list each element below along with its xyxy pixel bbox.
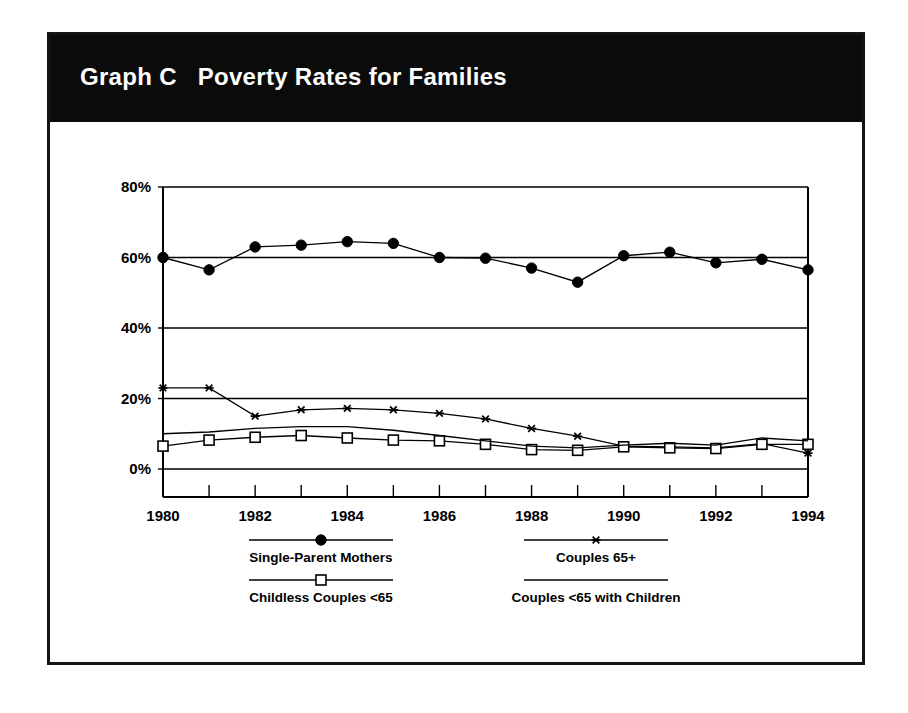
- page-title: Graph C Poverty Rates for Families: [80, 63, 507, 91]
- data-point-1993: [757, 439, 767, 449]
- y-tick-label-80: 80%: [121, 178, 151, 195]
- data-point-1981: [204, 265, 214, 275]
- series-childless-couples-65: [158, 431, 813, 456]
- series-group: [158, 236, 813, 456]
- title-banner: Graph C Poverty Rates for Families: [50, 35, 862, 122]
- data-point-1988: [527, 425, 536, 432]
- data-point-1985: [389, 406, 398, 413]
- data-point-1981: [204, 385, 213, 392]
- legend-entry-childless-couples-65[interactable]: Childless Couples <65: [249, 575, 393, 605]
- plot-area: 0%20%40%60%80% 1980198219841986198819901…: [50, 122, 862, 668]
- x-tick-label-1990: 1990: [607, 507, 640, 524]
- data-point-1989: [573, 433, 582, 440]
- x-tick-label-1982: 1982: [238, 507, 271, 524]
- legend-marker-asterisk: [591, 537, 600, 544]
- data-point-1989: [573, 445, 583, 455]
- y-tick-label-20: 20%: [121, 390, 151, 407]
- legend-label: Childless Couples <65: [249, 590, 393, 605]
- x-tick-label-1986: 1986: [423, 507, 456, 524]
- legend-label: Couples 65+: [556, 550, 636, 565]
- data-point-1984: [342, 433, 352, 443]
- data-point-1991: [665, 443, 675, 453]
- data-point-1983: [297, 406, 306, 413]
- data-point-1990: [619, 251, 629, 261]
- y-tick-labels-group: 0%20%40%60%80%: [121, 178, 163, 477]
- x-tick-label-1994: 1994: [791, 507, 825, 524]
- data-point-1991: [665, 247, 675, 257]
- legend-label: Single-Parent Mothers: [249, 550, 392, 565]
- data-point-1982: [251, 413, 260, 420]
- data-point-1985: [388, 238, 398, 248]
- data-point-1985: [388, 435, 398, 445]
- figure-frame: Graph C Poverty Rates for Families 0%20%…: [47, 32, 865, 665]
- legend-entry-single-parent-mothers[interactable]: Single-Parent Mothers: [249, 535, 393, 565]
- legend-label: Couples <65 with Children: [511, 590, 680, 605]
- data-point-1987: [481, 416, 490, 423]
- data-point-1983: [296, 431, 306, 441]
- gridlines-group: [163, 187, 808, 399]
- data-point-1986: [434, 252, 444, 262]
- data-point-1984: [342, 236, 352, 246]
- data-point-1986: [435, 410, 444, 417]
- legend-entry-couples-65[interactable]: Couples 65+: [524, 537, 668, 565]
- legend-marker-filled-circle: [316, 535, 326, 545]
- data-point-1982: [250, 432, 260, 442]
- data-point-1993: [757, 254, 767, 264]
- data-point-1980: [158, 252, 168, 262]
- y-tick-label-60: 60%: [121, 249, 151, 266]
- legend-marker-open-square: [316, 575, 326, 585]
- x-tick-label-1992: 1992: [699, 507, 732, 524]
- x-ticks-group: [163, 485, 808, 497]
- data-point-1990: [619, 442, 629, 452]
- data-point-1980: [158, 441, 168, 451]
- data-point-1992: [711, 258, 721, 268]
- data-point-1988: [526, 263, 536, 273]
- data-point-1984: [343, 405, 352, 412]
- data-point-1982: [250, 242, 260, 252]
- x-tick-label-1984: 1984: [331, 507, 365, 524]
- data-point-1981: [204, 435, 214, 445]
- legend-group: Single-Parent MothersCouples 65+Childles…: [249, 535, 681, 605]
- x-tick-labels-group: 19801982198419861988199019921994: [146, 507, 825, 524]
- y-tick-label-0: 0%: [129, 460, 151, 477]
- poverty-rates-line-chart: 0%20%40%60%80% 1980198219841986198819901…: [50, 122, 862, 668]
- series-single-parent-mothers: [158, 236, 813, 287]
- page-root: Graph C Poverty Rates for Families 0%20%…: [0, 0, 908, 713]
- x-tick-label-1988: 1988: [515, 507, 548, 524]
- data-point-1983: [296, 240, 306, 250]
- legend-entry-couples-65-with-children[interactable]: Couples <65 with Children: [511, 580, 680, 605]
- data-point-1989: [572, 277, 582, 287]
- data-point-1994: [803, 265, 813, 275]
- x-tick-label-1980: 1980: [146, 507, 179, 524]
- data-point-1987: [480, 253, 490, 263]
- y-tick-label-40: 40%: [121, 319, 151, 336]
- data-point-1986: [434, 436, 444, 446]
